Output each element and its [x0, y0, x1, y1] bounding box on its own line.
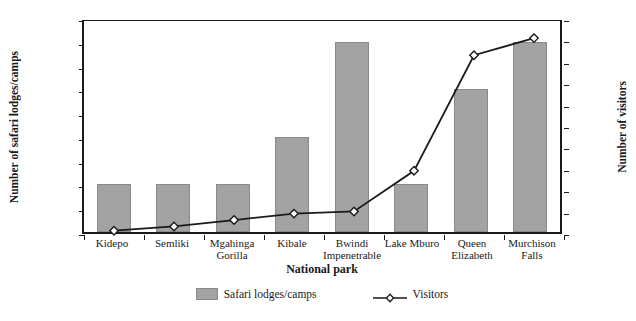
- left-tick-mark: [79, 45, 84, 46]
- x-axis-label-line: Kibale: [262, 238, 322, 250]
- visitors-data-point-marker: Semliki: 2000: [170, 222, 178, 230]
- right-tick-mark: [564, 128, 569, 129]
- visitors-data-point-marker: Murchison Falls: 46000: [530, 34, 538, 42]
- legend-label-visitors: Visitors: [413, 288, 449, 300]
- visitors-data-point-marker: Queen Elizabeth: 42000: [470, 51, 478, 59]
- visitors-data-point-marker: Mgahinga Gorilla: 3500: [230, 216, 238, 224]
- x-axis-label-line: Mgahinga: [202, 238, 262, 250]
- x-axis-label-line: Falls: [502, 250, 562, 262]
- x-axis-label-line: Bwindi: [322, 238, 382, 250]
- visitors-data-point-marker: Kibale: 5000: [290, 209, 298, 217]
- x-axis-label-line: Kidepo: [82, 238, 142, 250]
- right-tick-mark: [564, 85, 569, 86]
- legend-item-lodges: Safari lodges/camps: [196, 288, 317, 300]
- right-tick-mark: [564, 107, 569, 108]
- x-axis-label: QueenElizabeth: [442, 238, 502, 261]
- x-axis-label: MgahingaGorilla: [202, 238, 262, 261]
- x-axis-label: Lake Mburo: [382, 238, 442, 261]
- x-axis-category-labels: KidepoSemlikiMgahingaGorillaKibaleBwindi…: [82, 238, 562, 261]
- x-axis-label-line: Lake Mburo: [382, 238, 442, 250]
- clipped-caption-fragment: [40, 0, 600, 5]
- visitors-polyline: [114, 38, 534, 231]
- left-tick-mark: [79, 69, 84, 70]
- x-axis-label-line: Queen: [442, 238, 502, 250]
- visitors-line-series: Kidepo: 1000Semliki: 2000Mgahinga Gorill…: [84, 21, 564, 235]
- x-axis-label: MurchisonFalls: [502, 238, 562, 261]
- right-tick-mark: [564, 42, 569, 43]
- x-axis-label-line: Impenetrable: [322, 250, 382, 262]
- x-axis-label: Kibale: [262, 238, 322, 261]
- chart-container: Number of safari lodges/camps Number of …: [0, 0, 636, 321]
- right-tick-mark: [564, 64, 569, 65]
- legend-swatch-icon: [196, 288, 218, 300]
- right-tick-mark: [564, 192, 569, 193]
- x-tick-mark: [564, 235, 565, 240]
- right-tick-mark: [564, 214, 569, 215]
- x-axis-label: BwindiImpenetrable: [322, 238, 382, 261]
- left-tick-mark: [79, 164, 84, 165]
- chart-legend: Safari lodges/camps Visitors: [82, 288, 562, 300]
- x-axis-label-line: Murchison: [502, 238, 562, 250]
- x-axis-label-line: Elizabeth: [442, 250, 502, 262]
- visitors-data-point-marker: Kidepo: 1000: [110, 227, 118, 235]
- legend-label-lodges: Safari lodges/camps: [224, 288, 317, 300]
- right-axis-title-text: Number of visitors: [616, 81, 628, 173]
- x-axis-title: National park: [82, 262, 562, 277]
- right-axis-title: Number of visitors: [614, 20, 630, 234]
- left-tick-mark: [79, 21, 84, 22]
- left-tick-mark: [79, 140, 84, 141]
- right-tick-mark: [564, 21, 569, 22]
- left-tick-mark: [79, 211, 84, 212]
- plot-area: Kidepo: 1000Semliki: 2000Mgahinga Gorill…: [82, 20, 562, 234]
- x-axis-label-line: Gorilla: [202, 250, 262, 262]
- left-axis-title-text: Number of safari lodges/camps: [8, 51, 20, 203]
- left-tick-mark: [79, 92, 84, 93]
- legend-item-visitors: Visitors: [373, 288, 449, 300]
- left-tick-mark: [79, 116, 84, 117]
- x-axis-label: Semliki: [142, 238, 202, 261]
- legend-line-diamond-icon: [373, 289, 407, 299]
- x-axis-label-line: Semliki: [142, 238, 202, 250]
- right-tick-mark: [564, 171, 569, 172]
- left-axis-title: Number of safari lodges/camps: [6, 20, 22, 234]
- right-tick-mark: [564, 149, 569, 150]
- x-axis-label: Kidepo: [82, 238, 142, 261]
- left-tick-mark: [79, 187, 84, 188]
